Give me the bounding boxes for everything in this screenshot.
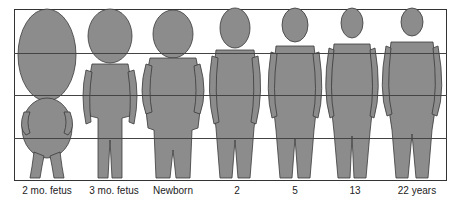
grid-line-quarter-1: [14, 53, 447, 54]
figure-age-22: [382, 8, 442, 178]
figure-2mo-fetus: [18, 9, 76, 178]
body-proportion-figures: [0, 0, 455, 204]
figure-age-13: [326, 8, 379, 178]
grid-line-quarter-3: [14, 138, 447, 139]
figure-age-5: [268, 8, 322, 178]
figure-age-2: [209, 8, 260, 178]
figure-newborn: [142, 10, 204, 178]
grid-line-quarter-2: [14, 95, 447, 96]
figure-3mo-fetus: [83, 9, 137, 178]
